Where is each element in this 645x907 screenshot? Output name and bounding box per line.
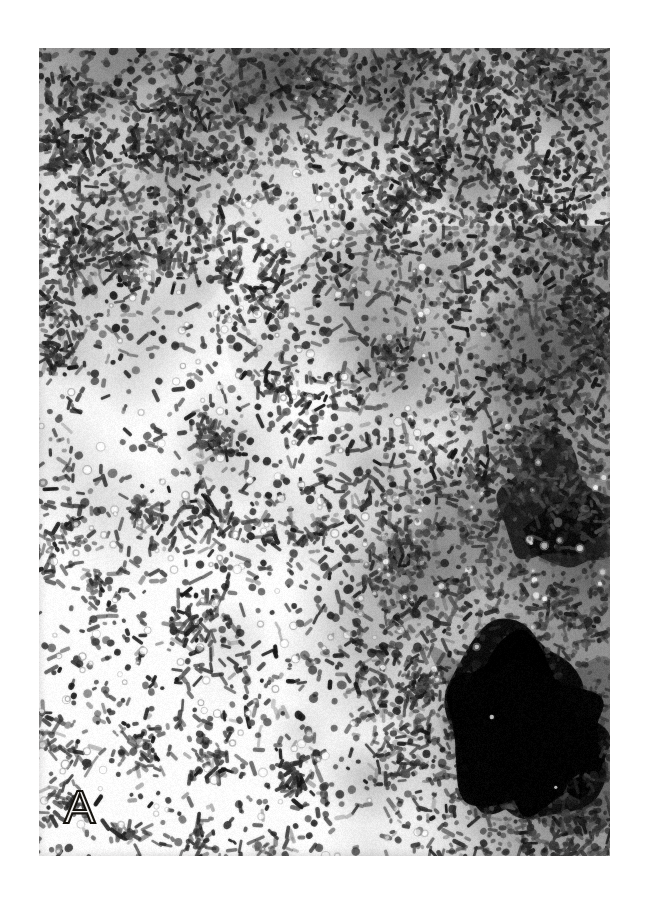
figure-root: A — [0, 0, 645, 907]
micrograph-image — [39, 48, 610, 856]
panel-label-a: A — [64, 783, 95, 830]
micrograph-canvas — [39, 48, 610, 856]
